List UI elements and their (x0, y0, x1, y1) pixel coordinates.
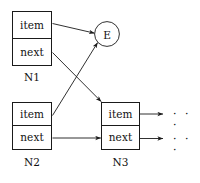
node-n1-name: N1 (12, 72, 52, 83)
node-n2-item-cell: item (13, 103, 51, 126)
edge-n1-item-to-e (53, 24, 95, 34)
node-n2-name: N2 (12, 157, 52, 168)
node-n2: item next (12, 102, 52, 150)
node-n1: item next (12, 11, 52, 66)
node-n2-next-cell: next (13, 126, 51, 149)
node-n1-next-cell: next (13, 39, 51, 66)
node-n2-next-label: next (20, 132, 44, 143)
node-n3: item next (101, 102, 140, 150)
edge-n1-next-to-n3 (53, 53, 102, 102)
item-continuation-ellipsis: · · · (173, 109, 200, 131)
node-n3-next-label: next (109, 132, 133, 143)
node-n1-next-label: next (20, 47, 44, 58)
node-n2-item-label: item (20, 109, 44, 120)
node-n3-item-label: item (108, 109, 132, 120)
next-continuation-ellipsis: · · · (173, 134, 200, 156)
element-node-label: E (97, 30, 117, 41)
node-n3-item-cell: item (102, 103, 139, 126)
node-n3-next-cell: next (102, 126, 139, 149)
node-n1-item-cell: item (13, 12, 51, 39)
node-n3-name: N3 (101, 157, 140, 168)
diagram-canvas: item next N1 item next N2 item next N3 E… (0, 0, 200, 183)
node-n1-item-label: item (20, 20, 44, 31)
edge-n2-item-to-e (53, 43, 98, 116)
